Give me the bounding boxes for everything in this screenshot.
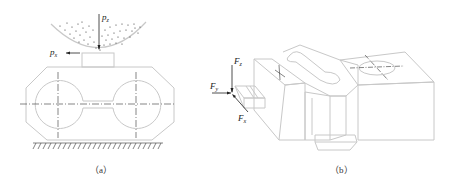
base-hatching — [33, 143, 163, 149]
workpiece-block — [26, 67, 174, 140]
diagram-canvas: pz px — [0, 0, 450, 187]
force-fy-label: Fy — [209, 81, 219, 92]
force-fz-label: Fz — [233, 56, 243, 67]
force-fx-label: Fx — [237, 113, 247, 124]
workpiece-neck — [82, 53, 114, 67]
cutting-tool — [235, 86, 265, 108]
right-block-top — [340, 52, 434, 85]
force-px-arrow — [66, 52, 80, 55]
caption-a: （a） — [90, 165, 112, 175]
keyhole-slot — [283, 45, 358, 96]
right-block-front — [358, 82, 434, 140]
dumbbell-cavity — [35, 81, 160, 129]
center-lines — [20, 72, 176, 138]
center-column — [305, 92, 346, 140]
figure-a: pz px — [20, 12, 176, 175]
left-block-front — [279, 83, 305, 140]
force-fz-arrow — [231, 65, 234, 93]
force-pz-label: pz — [101, 12, 110, 23]
force-fx-arrow — [232, 94, 248, 112]
figure-b — [235, 45, 434, 150]
top-hole — [359, 61, 395, 75]
force-pz-arrow — [98, 14, 101, 50]
force-px-label: px — [49, 47, 58, 58]
caption-b: （b） — [330, 165, 353, 175]
